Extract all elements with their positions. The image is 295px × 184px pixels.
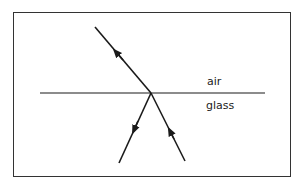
air-label: air — [207, 76, 221, 87]
incident-ray — [151, 93, 185, 161]
glass-label: glass — [206, 100, 234, 111]
reflected-ray-arrow-icon — [116, 52, 123, 60]
refracted-ray-arrow-icon — [134, 121, 138, 130]
incident-ray-arrow-icon — [170, 131, 174, 139]
refraction-diagram — [0, 0, 295, 184]
